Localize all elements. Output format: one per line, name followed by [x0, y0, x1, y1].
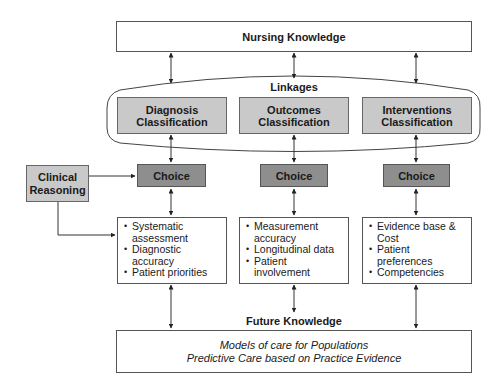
diagnosis-classification-line2: Classification — [136, 116, 208, 128]
future-knowledge-line2: Predictive Care based on Practice Eviden… — [187, 352, 402, 365]
nursing-knowledge-box: Nursing Knowledge — [116, 21, 472, 52]
clinical-reasoning-line1: Clinical — [38, 171, 77, 184]
clinical-reasoning-line2: Reasoning — [29, 184, 85, 197]
diagnosis-detail-box: Systematic assessment Diagnostic accurac… — [117, 217, 227, 284]
outcomes-classification-line2: Classification — [258, 116, 330, 128]
list-item: Longitudinal data — [246, 244, 344, 256]
linkages-label: Linkages — [254, 81, 334, 93]
choice-label: Choice — [276, 170, 313, 182]
interventions-classification-box: Interventions Classification — [362, 97, 472, 134]
list-item: Measurement accuracy — [246, 221, 344, 244]
choice-box-diagnosis: Choice — [137, 164, 206, 187]
nursing-knowledge-label: Nursing Knowledge — [242, 31, 345, 43]
diagnosis-classification-box: Diagnosis Classification — [117, 97, 227, 134]
outcomes-classification-line1: Outcomes — [267, 104, 321, 116]
future-knowledge-line1: Models of care for Populations — [220, 339, 369, 352]
list-item: Systematic assessment — [124, 221, 222, 244]
choice-label: Choice — [398, 170, 435, 182]
choice-box-interventions: Choice — [383, 164, 450, 187]
diagnosis-classification-line1: Diagnosis — [146, 104, 199, 116]
future-knowledge-label: Future Knowledge — [224, 315, 364, 327]
future-knowledge-box: Models of care for Populations Predictiv… — [116, 330, 472, 373]
list-item: Evidence base & Cost — [369, 221, 467, 244]
choice-box-outcomes: Choice — [260, 164, 328, 187]
outcomes-detail-box: Measurement accuracy Longitudinal data P… — [239, 217, 349, 284]
interventions-classification-line1: Interventions — [382, 104, 451, 116]
list-item: Patient involvement — [246, 256, 344, 279]
list-item: Diagnostic accuracy — [124, 244, 222, 267]
list-item: Patient preferences — [369, 244, 467, 267]
interventions-classification-line2: Classification — [381, 116, 453, 128]
interventions-detail-box: Evidence base & Cost Patient preferences… — [362, 217, 472, 284]
choice-label: Choice — [153, 170, 190, 182]
list-item: Patient priorities — [124, 267, 222, 279]
clinical-reasoning-box: Clinical Reasoning — [26, 165, 89, 202]
outcomes-classification-box: Outcomes Classification — [239, 97, 349, 134]
list-item: Competencies — [369, 267, 467, 279]
